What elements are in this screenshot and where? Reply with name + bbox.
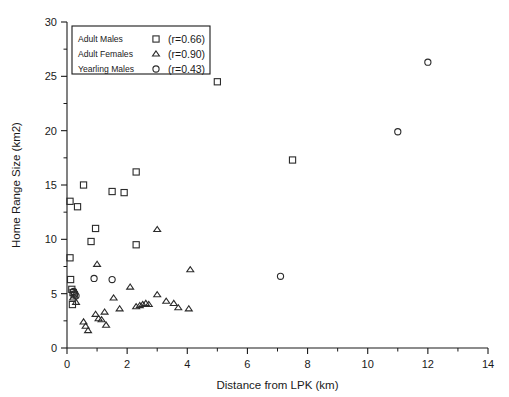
data-point-circle bbox=[395, 129, 401, 135]
legend-label-square: Adult Males bbox=[78, 34, 123, 44]
x-tick-label: 12 bbox=[422, 358, 434, 370]
y-tick-label: 25 bbox=[45, 70, 57, 82]
x-tick-label: 6 bbox=[244, 358, 250, 370]
data-point-triangle bbox=[127, 284, 134, 289]
data-point-square bbox=[289, 157, 295, 163]
x-axis-title: Distance from LPK (km) bbox=[216, 379, 338, 391]
legend-label-circle: Yearling Males bbox=[78, 64, 134, 74]
data-point-triangle bbox=[116, 306, 123, 311]
y-tick-label: 15 bbox=[45, 179, 57, 191]
data-point-triangle bbox=[163, 298, 170, 303]
data-point-square bbox=[67, 255, 73, 261]
data-point-square bbox=[109, 188, 115, 194]
data-point-square bbox=[121, 190, 127, 196]
legend-label-triangle: Adult Females bbox=[78, 49, 133, 59]
data-point-square bbox=[80, 182, 86, 188]
data-point-square bbox=[67, 198, 73, 204]
legend-r-circle: (r=0.43) bbox=[168, 63, 205, 75]
chart-canvas: 02468101214051015202530Distance from LPK… bbox=[0, 0, 509, 397]
x-tick-label: 0 bbox=[64, 358, 70, 370]
data-point-triangle bbox=[154, 226, 161, 231]
data-point-triangle bbox=[103, 322, 110, 327]
data-point-square bbox=[214, 79, 220, 85]
data-point-square bbox=[133, 169, 139, 175]
data-point-circle bbox=[425, 59, 431, 65]
legend-r-triangle: (r=0.90) bbox=[168, 48, 205, 60]
x-tick-label: 10 bbox=[362, 358, 374, 370]
y-tick-label: 30 bbox=[45, 16, 57, 28]
x-tick-label: 4 bbox=[184, 358, 190, 370]
data-point-triangle bbox=[110, 295, 117, 300]
data-point-square bbox=[68, 276, 74, 282]
data-point-circle bbox=[109, 276, 115, 282]
data-point-triangle bbox=[101, 309, 108, 314]
y-tick-label: 0 bbox=[51, 342, 57, 354]
data-point-triangle bbox=[170, 300, 177, 305]
x-tick-label: 2 bbox=[124, 358, 130, 370]
data-point-square bbox=[92, 225, 98, 231]
x-tick-label: 14 bbox=[482, 358, 494, 370]
scatter-plot-figure: 02468101214051015202530Distance from LPK… bbox=[0, 0, 509, 397]
y-tick-label: 5 bbox=[51, 288, 57, 300]
data-point-square bbox=[133, 242, 139, 248]
data-point-triangle bbox=[185, 306, 192, 311]
y-axis-title: Home Range Size (km2) bbox=[10, 122, 22, 248]
data-point-triangle bbox=[94, 261, 101, 266]
x-tick-label: 8 bbox=[305, 358, 311, 370]
y-tick-label: 10 bbox=[45, 233, 57, 245]
y-tick-label: 20 bbox=[45, 125, 57, 137]
data-point-triangle bbox=[187, 267, 194, 272]
legend-r-square: (r=0.66) bbox=[168, 33, 205, 45]
data-point-triangle bbox=[154, 292, 161, 297]
data-point-circle bbox=[277, 273, 283, 279]
data-point-circle bbox=[91, 275, 97, 281]
data-point-square bbox=[74, 204, 80, 210]
data-point-square bbox=[88, 238, 94, 244]
